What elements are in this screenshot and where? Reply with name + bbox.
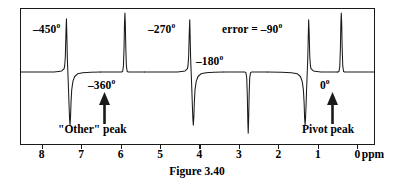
up-arrow-icon-pivot-peak [326, 92, 339, 124]
axis-tick-label-4: 4 [197, 149, 203, 161]
phase-label-minus-270: –270o [148, 24, 175, 36]
axis-tick-label-6: 6 [118, 149, 124, 161]
axis-tick-labels: 876543210ppm [20, 149, 375, 165]
axis-tick-label-5: 5 [157, 149, 163, 161]
axis-tick-label-2: 2 [275, 149, 281, 161]
up-arrow-icon-other-peak [98, 92, 111, 124]
axis-tick-label-0: 0 [354, 149, 360, 161]
annotation-other-peak: "Other" peak [58, 124, 127, 136]
phase-label-minus-180: –180o [196, 56, 223, 68]
axis-tick-label-8: 8 [39, 149, 45, 161]
figure-container: –450o –360o –270o –180o error = –90o 0o … [0, 0, 394, 185]
axis-tick-label-3: 3 [236, 149, 242, 161]
annotation-pivot-peak: Pivot peak [302, 124, 354, 136]
axis-unit-label: ppm [362, 149, 384, 161]
figure-caption: Figure 3.40 [0, 166, 394, 178]
phase-label-error-minus-90: error = –90o [222, 24, 282, 36]
phase-label-minus-450: –450o [33, 24, 60, 36]
phase-label-minus-360: –360o [88, 80, 115, 92]
phase-label-zero: 0o [320, 80, 330, 92]
axis-tick-label-1: 1 [315, 149, 321, 161]
axis-tick-label-7: 7 [78, 149, 84, 161]
